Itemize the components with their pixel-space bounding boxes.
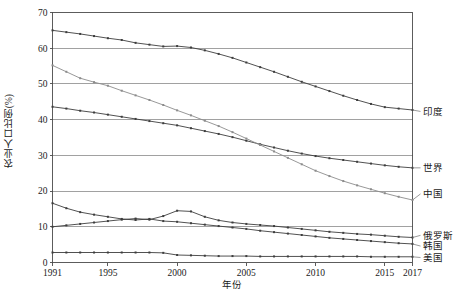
series-label-leader [413,257,421,258]
series-marker [218,125,220,127]
series-marker [107,37,109,39]
series-marker [328,175,330,177]
series-marker [384,106,386,108]
y-tick-label: 20 [38,186,48,196]
series-marker [232,57,234,59]
series-label-leader [413,244,421,246]
x-tick-label: 2005 [237,268,256,278]
series-marker [190,210,192,212]
series-marker [398,108,400,110]
series-marker [245,140,247,142]
series-marker [232,136,234,138]
series-marker [315,155,317,157]
x-tick-label: 2000 [168,268,187,278]
series-marker [356,184,358,186]
series-marker [218,53,220,55]
series-marker [398,256,400,258]
series-marker [121,90,123,92]
series-marker [232,131,234,133]
series-marker [301,255,303,257]
series-marker [79,33,81,35]
series-marker [384,235,386,237]
series-label-印度: 印度 [423,106,443,117]
series-marker [135,252,137,254]
series-marker [52,29,54,31]
series-marker [259,255,261,257]
series-marker [176,254,178,256]
series-marker [232,255,234,257]
series-marker [107,220,109,222]
series-marker [204,216,206,218]
series-marker [162,45,164,47]
series-marker [148,99,150,101]
series-marker [79,110,81,112]
series-marker [245,255,247,257]
series-marker [259,144,261,146]
series-marker [52,202,54,204]
series-marker [398,236,400,238]
series-label-leader [413,235,421,237]
series-marker [218,219,220,221]
series-label-韩国: 韩国 [423,240,443,251]
series-marker [65,31,67,33]
series-marker [315,85,317,87]
series-marker [245,223,247,225]
series-marker [176,124,178,126]
series-marker [93,81,95,83]
series-marker [65,207,67,209]
series-marker [287,76,289,78]
series-marker [342,180,344,182]
series-marker [121,39,123,41]
series-marker [135,118,137,120]
series-marker [245,228,247,230]
series-marker [176,109,178,111]
series-marker [384,241,386,243]
series-marker [93,35,95,37]
series-marker [107,114,109,116]
series-labels: 印度世界中国俄罗斯韩国美国 [413,106,453,263]
series-marker [218,255,220,257]
y-tick-label: 0 [43,258,48,268]
series-marker [93,112,95,114]
series-label-leader [413,194,421,200]
series-line [53,203,413,244]
series-marker [342,232,344,234]
series-marker [370,234,372,236]
series-marker [370,188,372,190]
series-marker [79,77,81,79]
series-line [53,30,413,110]
series-marker [384,192,386,194]
series-marker [328,157,330,159]
series-label-俄罗斯: 俄罗斯 [423,230,453,241]
series-marker [190,114,192,116]
series-marker [107,216,109,218]
series-marker [328,231,330,233]
series-marker [232,222,234,224]
series-marker [259,230,261,232]
series-marker [273,231,275,233]
series-label-世界: 世界 [423,162,443,173]
y-tick-label: 60 [38,44,48,54]
series-marker [370,103,372,105]
x-axis-ticks: 1991199520002005201020152017 [43,263,422,278]
series-marker [315,229,317,231]
series-marker [52,64,54,66]
series-marker [190,254,192,256]
series-label-leader [413,110,421,111]
series-marker [121,252,123,254]
x-tick-label: 2015 [375,268,394,278]
series-marker [135,94,137,96]
series-marker [287,150,289,152]
series-marker [162,220,164,222]
series-marker [162,122,164,124]
x-axis-title: 年份 [52,277,412,291]
series-marker [273,255,275,257]
series-marker [342,159,344,161]
series-marker [204,130,206,132]
series-marker [65,108,67,110]
series-marker [162,215,164,217]
series-marker [273,147,275,149]
y-axis-ticks: 010203040506070 [38,8,53,268]
series-marker [356,239,358,241]
series-marker [79,252,81,254]
